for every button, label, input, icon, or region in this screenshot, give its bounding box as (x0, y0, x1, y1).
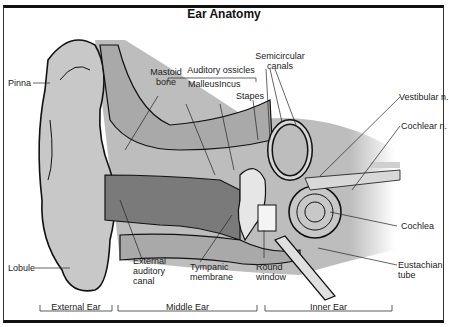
pinna-shape (39, 40, 115, 291)
label-semicircular-canals: Semicircular canals (252, 51, 308, 71)
label-vestibular-nerve: Vestibular n. (399, 92, 449, 102)
section-inner-ear: Inner Ear (265, 302, 392, 312)
label-pinna: Pinna (8, 78, 31, 88)
section-middle-ear: Middle Ear (118, 302, 257, 312)
label-lobule: Lobule (8, 263, 35, 273)
label-incus: Incus (219, 79, 241, 89)
label-eustachian-line1: Eustachian (398, 260, 443, 270)
label-round-line2: window (256, 272, 286, 282)
label-tympanic-line2: membrane (190, 272, 233, 282)
label-canal-line3: canal (133, 276, 166, 286)
label-round-window: Round window (256, 262, 286, 282)
label-semicircular-line2: canals (252, 61, 308, 71)
label-tympanic-line1: Tympanic (190, 262, 233, 272)
label-mastoid-line2: bone (148, 77, 184, 87)
label-cochlear-nerve: Cochlear n. (401, 121, 447, 131)
label-cochlea: Cochlea (401, 221, 434, 231)
label-external-auditory-canal: External auditory canal (133, 256, 166, 286)
label-semicircular-line1: Semicircular (252, 51, 308, 61)
label-eustachian-line2: tube (398, 270, 443, 280)
label-canal-line2: auditory (133, 266, 166, 276)
section-external-ear: External Ear (40, 302, 112, 312)
label-canal-line1: External (133, 256, 166, 266)
label-eustachian-tube: Eustachian tube (398, 260, 443, 280)
label-malleus: Malleus (188, 79, 219, 89)
label-round-line1: Round (256, 262, 286, 272)
label-stapes: Stapes (236, 91, 264, 101)
label-tympanic-membrane: Tympanic membrane (190, 262, 233, 282)
